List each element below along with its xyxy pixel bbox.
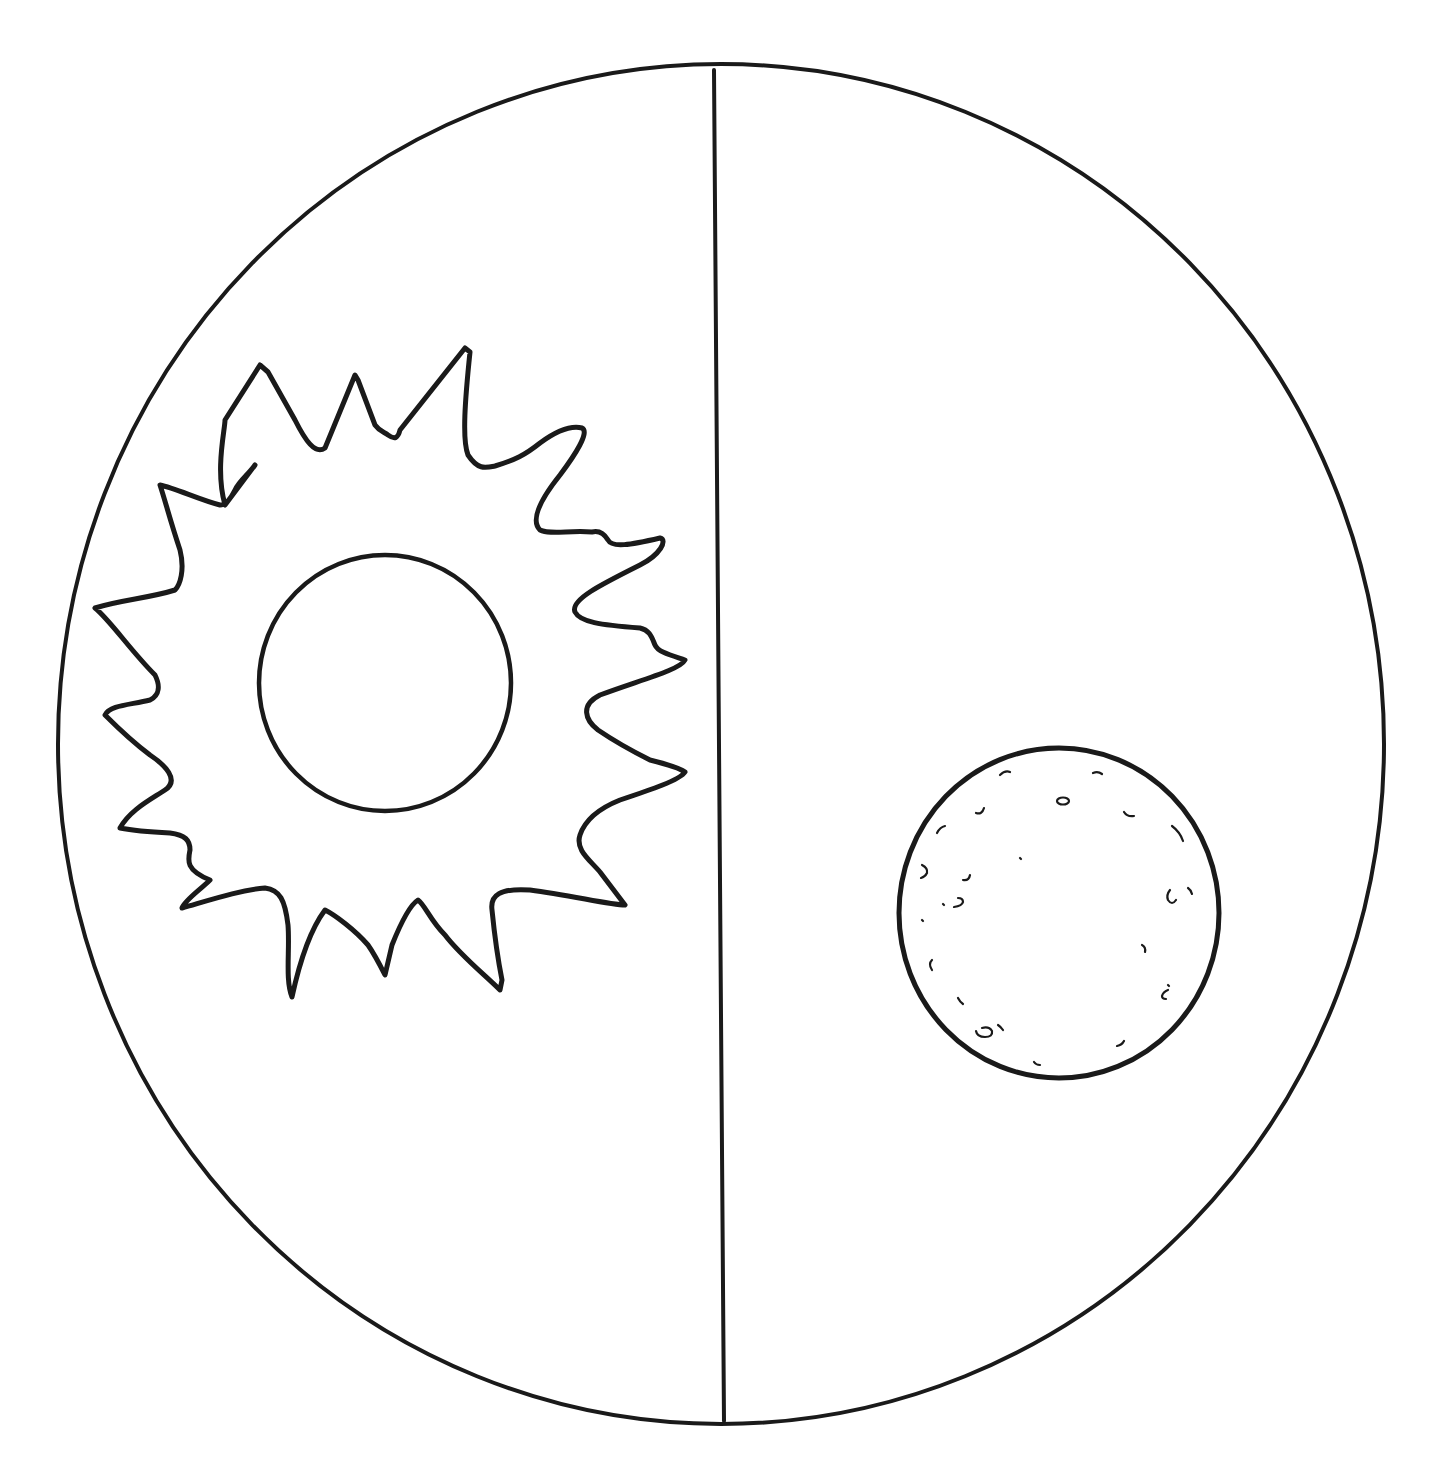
sun-icon <box>95 348 685 997</box>
day-night-diagram <box>0 0 1446 1478</box>
sun-disc <box>259 555 511 811</box>
divider-line <box>714 70 724 1421</box>
sun-rays <box>95 348 685 997</box>
moon-icon <box>899 748 1219 1078</box>
moon-craters <box>921 771 1192 1065</box>
